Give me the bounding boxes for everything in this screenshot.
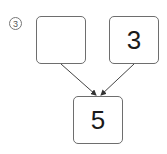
right-arrow (101, 64, 134, 95)
left-arrow (61, 64, 96, 95)
arrows (0, 0, 167, 154)
